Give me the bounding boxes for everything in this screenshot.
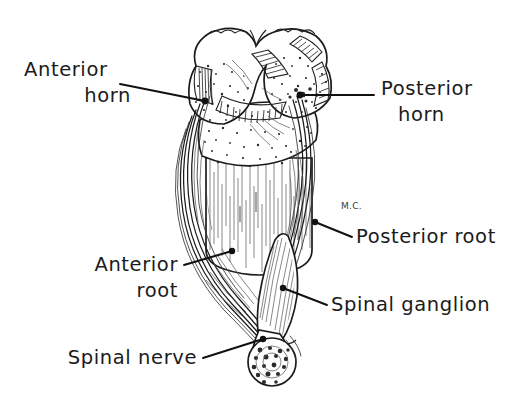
label-anterior-horn-line1: Anterior <box>24 58 108 81</box>
marker-anterior-horn <box>202 98 209 105</box>
label-anterior-horn-line2: horn <box>84 84 131 107</box>
leader-posterior-root <box>315 222 352 237</box>
label-spinal-ganglion: Spinal ganglion <box>331 293 490 316</box>
marker-posterior-horn <box>297 92 304 99</box>
label-posterior-horn-line2: horn <box>398 103 445 126</box>
label-spinal-nerve: Spinal nerve <box>68 346 197 369</box>
spinal-nerve-trunk <box>248 330 301 386</box>
marker-anterior-root <box>229 248 235 254</box>
marker-spinal-nerve <box>260 336 266 342</box>
marker-posterior-root <box>312 219 318 225</box>
figure-canvas: M.C. Anterior horn Posterior horn Poster… <box>0 0 511 397</box>
label-posterior-horn-line1: Posterior <box>381 77 473 100</box>
label-anterior-root-line2: root <box>137 279 179 302</box>
marker-spinal-ganglion <box>280 285 286 291</box>
spinal-cord-diagram: M.C. Anterior horn Posterior horn Poster… <box>0 0 511 397</box>
artist-signature: M.C. <box>341 201 362 211</box>
label-anterior-root-line1: Anterior <box>94 253 178 276</box>
label-posterior-root: Posterior root <box>356 225 496 248</box>
